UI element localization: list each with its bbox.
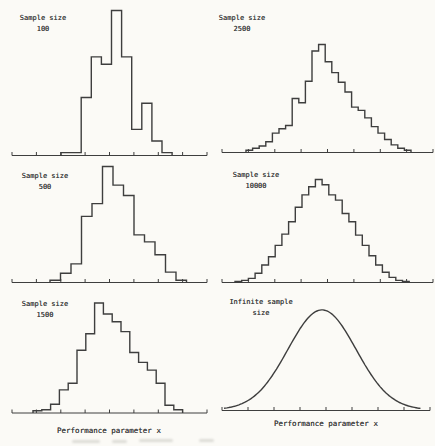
panel-title-line1: Infinite sample: [226, 297, 296, 308]
panel-title-line2: 2500: [215, 24, 269, 35]
plots-svg: [0, 0, 435, 446]
scan-smudge: [139, 439, 173, 442]
x-axis-label-right: Performance parameter x: [241, 419, 411, 428]
panel-title-line1: Sample size: [227, 170, 285, 181]
panel-title-line1: Sample size: [16, 13, 70, 24]
scan-smudge: [72, 440, 100, 443]
panel-title-line2: 10000: [227, 181, 285, 192]
panel-title-sample-100: Sample size 100: [16, 13, 70, 35]
panel-title-sample-500: Sample size 500: [18, 171, 72, 193]
panel-title-line1: Sample size: [18, 171, 72, 182]
panel-title-sample-2500: Sample size 2500: [215, 13, 269, 35]
figure-sampling-histograms: Sample size 100 Sample size 2500 Sample …: [0, 0, 435, 446]
x-axis-label-left: Performance parameter x: [24, 426, 194, 435]
panel-title-line1: Sample size: [215, 13, 269, 24]
panel-title-infinite-sample: Infinite sample size: [226, 297, 296, 319]
panel-title-line2: size: [226, 308, 296, 319]
panel-title-line2: 500: [18, 182, 72, 193]
panel-title-line2: 1500: [18, 310, 72, 321]
panel-title-line2: 100: [16, 24, 70, 35]
panel-title-sample-10000: Sample size 10000: [227, 170, 285, 192]
panel-title-line1: Sample size: [18, 299, 72, 310]
panel-title-sample-1500: Sample size 1500: [18, 299, 72, 321]
scan-smudge: [112, 440, 127, 443]
scan-smudge: [199, 439, 214, 442]
